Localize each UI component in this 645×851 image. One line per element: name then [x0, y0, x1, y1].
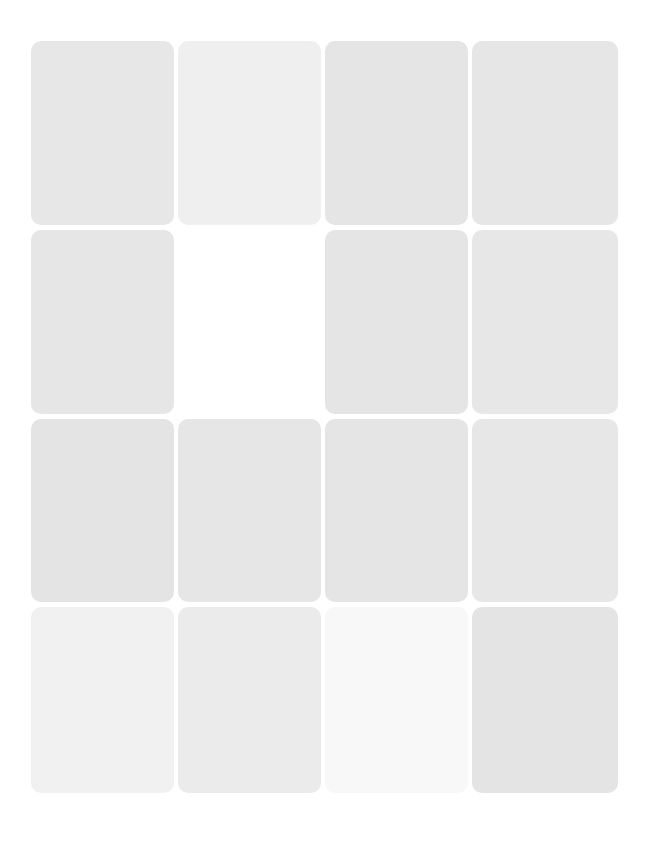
- card-r4-c2[interactable]: [178, 607, 321, 793]
- card-grid: [31, 41, 618, 793]
- card-r1-c1[interactable]: [31, 41, 174, 225]
- card-r4-c3[interactable]: [325, 607, 468, 793]
- card-r4-c1[interactable]: [31, 607, 174, 793]
- card-r1-c2[interactable]: [178, 41, 321, 225]
- card-r1-c3[interactable]: [325, 41, 468, 225]
- card-r1-c4[interactable]: [472, 41, 618, 225]
- card-r2-c1[interactable]: [31, 230, 174, 414]
- card-r3-c3[interactable]: [325, 419, 468, 602]
- card-r2-c3[interactable]: [325, 230, 468, 414]
- card-r2-c2[interactable]: [178, 230, 321, 414]
- card-r3-c2[interactable]: [178, 419, 321, 602]
- card-r4-c4[interactable]: [472, 607, 618, 793]
- card-r2-c4[interactable]: [472, 230, 618, 414]
- card-r3-c4[interactable]: [472, 419, 618, 602]
- card-r3-c1[interactable]: [31, 419, 174, 602]
